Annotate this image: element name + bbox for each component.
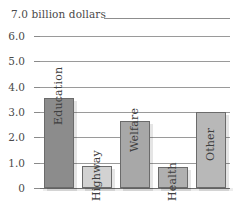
category-label-highway: Highway: [90, 150, 103, 201]
chart-units-caption: 7.0 billion dollars: [11, 8, 106, 20]
top-gridline: [104, 18, 230, 19]
y-tickmark: [34, 188, 40, 189]
bar-chart: 7.0 billion dollars 6.05.04.03.02.01.00 …: [0, 0, 237, 206]
y-tick-label: 4.0: [0, 81, 25, 93]
category-label-other: Other: [204, 128, 217, 161]
y-tick-label: 5.0: [0, 55, 25, 67]
plot-area: 6.05.04.03.02.01.00 EducationHighwayWelf…: [40, 36, 230, 188]
category-label-welfare: Welfare: [128, 108, 141, 152]
category-label-health: Health: [166, 162, 179, 201]
category-label-education: Education: [52, 67, 65, 125]
y-tick-label: 2.0: [0, 131, 25, 143]
y-tick-label: 0: [0, 182, 25, 194]
y-tick-label: 3.0: [0, 106, 25, 118]
y-tick-label: 6.0: [0, 30, 25, 42]
y-tick-label: 1.0: [0, 157, 25, 169]
gridline-0: [40, 188, 230, 189]
